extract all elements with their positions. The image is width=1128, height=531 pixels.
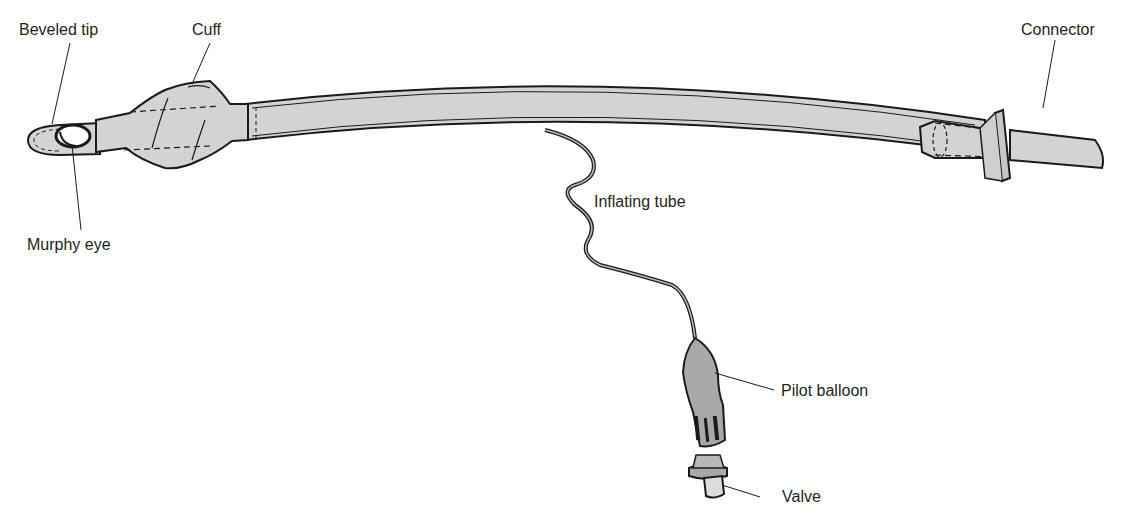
diagram-artwork (0, 0, 1128, 531)
cuff (96, 81, 248, 168)
label-murphy-eye: Murphy eye (27, 237, 111, 253)
murphy-eye (56, 125, 90, 147)
label-inflating-tube: Inflating tube (594, 194, 686, 210)
label-pilot-balloon: Pilot balloon (781, 383, 868, 399)
inflating-tube (545, 130, 695, 338)
label-valve: Valve (782, 489, 821, 505)
label-connector: Connector (1021, 22, 1095, 38)
endotracheal-tube-diagram: Beveled tip Cuff Connector Murphy eye In… (0, 0, 1128, 531)
label-cuff: Cuff (192, 22, 221, 38)
label-beveled-tip: Beveled tip (19, 22, 98, 38)
tube-shaft (245, 86, 985, 153)
pilot-balloon (683, 338, 727, 479)
valve (704, 476, 724, 498)
